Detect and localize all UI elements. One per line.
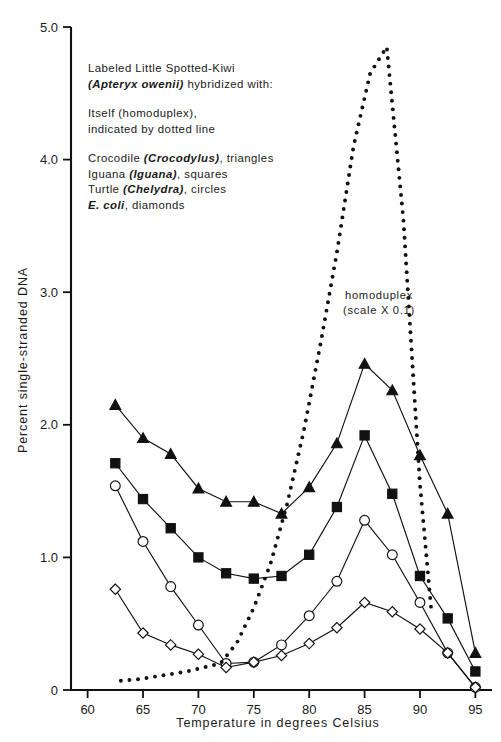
curve-dot [162,673,166,677]
curve-dot [335,249,339,253]
legend-species-3: E. coli, diamonds [88,199,185,211]
series-2 [110,481,480,692]
curve-dot [328,292,332,296]
curve-dot [409,339,413,343]
data-point-circle [194,620,204,630]
curve-dot [338,232,342,236]
curve-dot [239,632,243,636]
legend-homoduplex-line1: Itself (homoduplex), [88,107,197,119]
curve-dot [291,477,295,481]
x-tick-label: 65 [136,702,150,717]
y-tick-label: 4.0 [40,152,58,167]
curve-dot [170,672,174,676]
homoduplex-annotation-line1: homoduplex [345,289,413,301]
data-point-square [332,502,341,511]
data-point-diamond [276,650,286,660]
data-point-square [443,614,452,623]
curve-dot [416,450,420,454]
data-point-diamond [138,628,148,638]
curve-dot [351,148,355,152]
curve-dot [382,50,386,54]
data-point-diamond [387,607,397,617]
curve-dot [427,579,431,583]
curve-dot [323,317,327,321]
data-point-triangle [304,482,315,492]
curve-dot [293,469,297,473]
curve-dot [417,468,421,472]
curve-dot [398,184,402,188]
curve-dot [344,190,348,194]
data-point-square [249,574,258,583]
data-point-diamond [193,649,203,659]
curve-dot [412,382,416,386]
data-point-square [166,524,175,533]
data-point-square [388,489,397,498]
curve-dot [415,433,419,437]
homoduplex-annotation-line2: (scale X 0.1) [343,304,415,316]
curve-dot [357,122,361,126]
data-point-diamond [304,638,314,648]
legend-heading-line1: Labeled Little Spotted-Kiwi [88,62,235,74]
series-1 [111,431,480,676]
curve-dot [119,679,123,683]
legend-heading-line2: (Apteryx owenii) hybridized with: [88,78,273,90]
curve-dot [254,601,258,605]
curve-dot [414,416,418,420]
curve-dot [413,408,417,412]
curve-dot [257,593,261,597]
curve-dot [204,665,208,669]
data-point-triangle [110,400,121,410]
curve-dot [260,585,264,589]
curve-dot [297,452,301,456]
curve-dot [212,663,216,667]
curve-dot [336,241,340,245]
curve-dot [404,262,408,266]
curve-dot [283,511,287,515]
x-axis-label: Temperature in degrees Celsius [176,716,379,730]
data-point-circle [332,576,342,586]
data-point-diamond [166,640,176,650]
data-point-circle [415,598,425,608]
curve-dot [243,624,247,628]
curve-dot [391,107,395,111]
curve-dot [385,47,389,51]
curve-dot [392,116,396,120]
curve-dot [392,125,396,129]
curve-dot [353,139,357,143]
curve-dot [405,279,409,283]
curve-dot [402,227,406,231]
curve-dot [400,202,404,206]
data-series-group [110,47,481,692]
curve-dot [332,266,336,270]
series-3 [110,584,480,693]
curve-dot [179,671,183,675]
curve-dot [343,198,347,202]
curve-dot [250,609,254,613]
curve-dot [360,106,364,110]
legend-species-0: Crocodile (Crocodylus), triangles [88,152,274,164]
curve-dot [413,399,417,403]
y-axis-ticks: 01.02.03.04.05.0 [40,20,71,698]
curve-dot [187,669,191,673]
curve-dot [399,193,403,197]
curve-dot [425,562,429,566]
curve-dot [329,283,333,287]
data-point-circle [110,481,120,491]
y-tick-label: 5.0 [40,20,58,35]
curve-dot [230,647,234,651]
data-point-square [305,550,314,559]
x-axis-ticks: 6065707580859095 [80,690,482,717]
data-point-triangle [359,358,370,368]
data-point-square [277,571,286,580]
data-point-square [111,459,120,468]
data-point-diamond [110,584,120,594]
curve-dot [289,486,293,490]
curve-dot [402,219,406,223]
y-tick-label: 1.0 [40,550,58,565]
curve-dot [321,326,325,330]
curve-dot [368,72,372,76]
series-line [115,364,475,653]
curve-dot [307,402,311,406]
curve-dot [405,270,409,274]
curve-dot [427,588,431,592]
